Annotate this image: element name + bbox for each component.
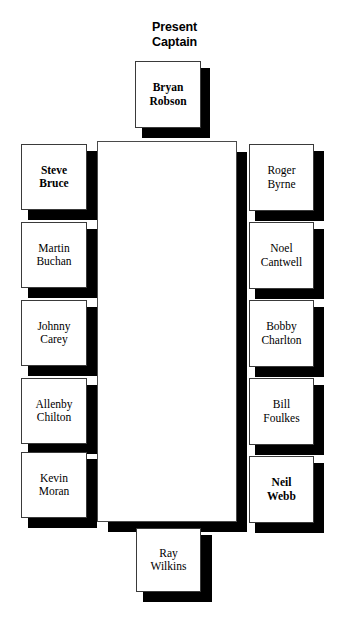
card-left-2[interactable]: Martin Buchan (21, 222, 87, 288)
card-right-4-label: Bill Foulkes (261, 398, 301, 425)
captain-card-shadow-bottom (142, 128, 210, 138)
pitch-shadow-right (236, 152, 247, 532)
card-right-2[interactable]: Noel Cantwell (249, 222, 314, 289)
card-bottom[interactable]: Ray Wilkins (136, 528, 201, 592)
card-shadow (86, 229, 97, 296)
card-right-1[interactable]: Roger Byrne (249, 144, 314, 211)
card-right-3-label: Bobby Charlton (259, 320, 303, 347)
captains-diagram: Present Captain Bryan Robson Steve Bruce… (0, 0, 339, 627)
card-right-4[interactable]: Bill Foulkes (249, 378, 314, 445)
card-shadow (143, 592, 212, 602)
card-shadow (86, 307, 97, 374)
pitch-rectangle (97, 141, 237, 522)
card-right-2-label: Noel Cantwell (259, 242, 305, 269)
card-shadow (313, 307, 324, 375)
card-left-4[interactable]: Allenby Chilton (21, 378, 87, 444)
card-shadow (255, 367, 324, 377)
card-shadow (313, 229, 324, 297)
card-left-2-label: Martin Buchan (34, 242, 73, 269)
card-shadow (255, 445, 324, 455)
card-captain-label: Bryan Robson (147, 81, 188, 108)
card-shadow (313, 151, 324, 218)
card-shadow (28, 518, 97, 528)
card-right-5[interactable]: Neil Webb (249, 456, 314, 523)
card-left-3-label: Johnny Carey (35, 320, 72, 347)
captain-card-shadow (200, 68, 210, 135)
card-shadow (86, 151, 97, 218)
card-left-3[interactable]: Johnny Carey (21, 300, 87, 366)
card-shadow (313, 385, 324, 453)
card-shadow (28, 288, 97, 298)
card-shadow (255, 211, 324, 221)
card-shadow (28, 210, 97, 220)
card-left-1-label: Steve Bruce (37, 164, 70, 191)
card-shadow (255, 289, 324, 299)
card-left-5-label: Kevin Moran (37, 472, 72, 499)
card-bottom-label: Ray Wilkins (149, 547, 189, 574)
card-left-1[interactable]: Steve Bruce (21, 144, 87, 210)
card-shadow (255, 523, 324, 533)
card-shadow (86, 385, 97, 452)
card-shadow (313, 463, 324, 531)
card-left-5[interactable]: Kevin Moran (21, 452, 87, 518)
card-right-5-label: Neil Webb (265, 476, 298, 503)
card-right-3[interactable]: Bobby Charlton (249, 300, 314, 367)
card-shadow (28, 366, 97, 376)
card-right-1-label: Roger Byrne (265, 164, 297, 191)
present-captain-heading: Present Captain (152, 20, 262, 50)
card-captain[interactable]: Bryan Robson (135, 61, 201, 128)
card-left-4-label: Allenby Chilton (33, 398, 74, 425)
card-shadow (86, 459, 97, 526)
